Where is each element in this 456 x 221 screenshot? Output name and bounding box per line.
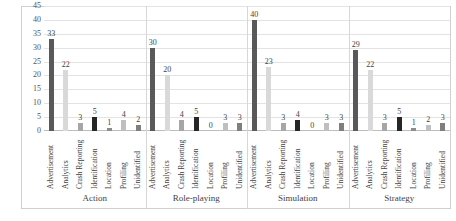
bar[interactable]	[92, 117, 97, 131]
category-label: Crash Reporting	[178, 140, 186, 189]
bar-value-label: 5	[93, 107, 97, 116]
bar[interactable]	[266, 67, 271, 131]
bar-slot: 30	[146, 6, 161, 131]
bar[interactable]	[252, 20, 257, 131]
bar-slot: 22	[59, 6, 74, 131]
category-label-slot: Crash Reporting	[378, 133, 393, 189]
bar-slot: 3	[233, 6, 248, 131]
category-label: Location	[308, 162, 316, 189]
group-label: Strategy	[349, 192, 451, 206]
bar[interactable]	[179, 120, 184, 131]
category-label: Analytics	[163, 160, 171, 189]
category-label-slot: Profiling	[421, 133, 436, 189]
category-label: Advertisement	[149, 145, 157, 189]
category-label: Analytics	[265, 160, 273, 189]
category-label-slot: Analytics	[363, 133, 378, 189]
bar[interactable]	[63, 70, 68, 131]
y-axis: 051015202530354045	[21, 6, 43, 131]
bar-slot: 22	[363, 6, 378, 131]
bar-value-label: 2	[136, 115, 140, 124]
category-label-group: AdvertisementAnalyticsCrash ReportingIde…	[349, 133, 451, 189]
bar-value-label: 3	[339, 113, 343, 122]
category-label: Identification	[91, 149, 99, 189]
bar[interactable]	[150, 48, 155, 131]
category-label: Unidentified	[236, 151, 244, 189]
bar[interactable]	[165, 75, 170, 131]
bar-value-label: 3	[441, 113, 445, 122]
category-label-group: AdvertisementAnalyticsCrash ReportingIde…	[146, 133, 248, 189]
bar-value-label: 0	[310, 121, 314, 130]
bar[interactable]	[223, 123, 228, 131]
category-label: Location	[105, 162, 113, 189]
category-label-slot: Location	[407, 133, 422, 189]
bar-slot: 5	[189, 6, 204, 131]
bar-group: 302045033	[146, 6, 248, 131]
bar-slot: 3	[218, 6, 233, 131]
bar-value-label: 2	[426, 115, 430, 124]
bar[interactable]	[295, 120, 300, 131]
category-label: Analytics	[62, 160, 70, 189]
bar[interactable]	[136, 125, 141, 131]
bar-slot: 3	[73, 6, 88, 131]
group-label: Role-playing	[146, 192, 248, 206]
bar-slot: 4	[291, 6, 306, 131]
category-label-slot: Location	[305, 133, 320, 189]
category-label-slot: Advertisement	[146, 133, 161, 189]
bar-value-label: 4	[180, 110, 184, 119]
group-label: Simulation	[247, 192, 349, 206]
category-label: Analytics	[366, 160, 374, 189]
category-label: Crash Reporting	[279, 140, 287, 189]
category-label-slot: Identification	[189, 133, 204, 189]
bar-slot: 4	[175, 6, 190, 131]
category-label-slot: Location	[102, 133, 117, 189]
category-label: Identification	[192, 149, 200, 189]
bar[interactable]	[281, 123, 286, 131]
bar[interactable]	[368, 70, 373, 131]
bar[interactable]	[194, 117, 199, 131]
bar[interactable]	[382, 123, 387, 131]
bar-value-label: 3	[78, 113, 82, 122]
bar[interactable]	[339, 123, 344, 131]
category-label: Unidentified	[134, 151, 142, 189]
category-label: Advertisement	[352, 145, 360, 189]
bar-value-label: 5	[194, 107, 198, 116]
bar[interactable]	[237, 123, 242, 131]
bar-value-label: 3	[383, 113, 387, 122]
bar-group: 402334033	[247, 6, 349, 131]
bar[interactable]	[440, 123, 445, 131]
bar[interactable]	[353, 50, 358, 131]
y-tick-label: 5	[37, 113, 41, 121]
bar-value-label: 0	[209, 121, 213, 130]
group-label: Action	[44, 192, 146, 206]
y-tick-label: 0	[37, 127, 41, 135]
bar[interactable]	[324, 123, 329, 131]
bar-slot: 2	[421, 6, 436, 131]
bar-slot: 1	[102, 6, 117, 131]
bar[interactable]	[397, 117, 402, 131]
category-label: Profiling	[424, 162, 432, 189]
category-label-group: AdvertisementAnalyticsCrash ReportingIde…	[247, 133, 349, 189]
bar-slot: 23	[262, 6, 277, 131]
bar-group: 292235123	[349, 6, 451, 131]
category-label-slot: Unidentified	[233, 133, 248, 189]
category-label-slot: Unidentified	[436, 133, 451, 189]
category-label-slot: Profiling	[117, 133, 132, 189]
bar-value-label: 22	[366, 60, 374, 69]
bar-slot: 3	[378, 6, 393, 131]
bar-value-label: 4	[296, 110, 300, 119]
bar-slot: 3	[276, 6, 291, 131]
bar-value-label: 3	[325, 113, 329, 122]
grouped-bar-chart: 051015202530354045 332235142302045033402…	[0, 0, 456, 221]
bar[interactable]	[426, 125, 431, 131]
bar[interactable]	[411, 128, 416, 131]
category-axis-labels: AdvertisementAnalyticsCrash ReportingIde…	[44, 133, 450, 189]
bar[interactable]	[78, 123, 83, 131]
category-label-slot: Crash Reporting	[276, 133, 291, 189]
bar[interactable]	[107, 128, 112, 131]
y-tick-label: 35	[33, 30, 41, 38]
bar-slot: 5	[392, 6, 407, 131]
bar[interactable]	[49, 39, 54, 131]
category-label-slot: Crash Reporting	[175, 133, 190, 189]
bar[interactable]	[121, 120, 126, 131]
category-label-slot: Analytics	[59, 133, 74, 189]
